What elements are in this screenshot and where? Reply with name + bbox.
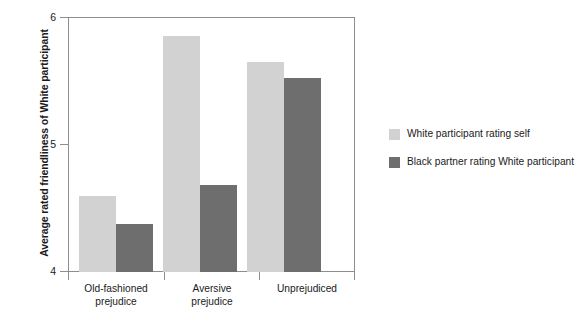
bar-group-2-black-partner [200, 185, 237, 272]
x-label-line-1: Unprejudiced [247, 283, 367, 296]
legend-swatch-light [389, 129, 400, 140]
legend-label-white-participant: White participant rating self [407, 128, 530, 140]
chart-legend: White participant rating self Black part… [389, 128, 574, 184]
x-tick-mark-right [354, 272, 355, 280]
bar-group-1-black-partner [116, 224, 153, 272]
bar-series-container [68, 17, 355, 272]
bar-group-3-white-self [247, 62, 284, 272]
bar-group-3-black-partner [284, 78, 321, 272]
x-label-line-2: prejudice [152, 296, 272, 309]
bar-group-1-white-self [79, 196, 116, 273]
y-tick-label-6: 6 [30, 11, 56, 23]
x-tick-mark-2 [259, 272, 260, 280]
y-tick-label-5: 5 [30, 138, 56, 150]
legend-swatch-dark [389, 157, 400, 168]
x-tick-mark-left [68, 272, 69, 280]
x-label-unprejudiced: Unprejudiced [247, 283, 367, 296]
y-tick-label-4: 4 [30, 265, 56, 277]
bar-group-2-white-self [163, 36, 200, 272]
legend-item-black-partner: Black partner rating White participant [389, 156, 574, 168]
x-tick-mark-1 [164, 272, 165, 280]
legend-label-black-partner: Black partner rating White participant [407, 156, 574, 168]
legend-item-white-participant: White participant rating self [389, 128, 574, 140]
